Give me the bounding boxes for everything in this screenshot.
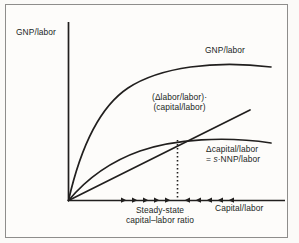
labor-growth-line-label-line1: (Δlabor/labor)· <box>152 92 207 102</box>
labor-growth-line-label: (Δlabor/labor)· (capital/labor) <box>152 92 207 113</box>
steady-state-annotation-line1: Steady-state <box>112 205 208 215</box>
labor-growth-line-label-line2: (capital/labor) <box>152 102 207 112</box>
saving-curve-label-line1: Δcapital/labor <box>206 144 260 154</box>
x-axis-label: Capital/labor <box>215 203 263 213</box>
growth-model-figure: GNP/labor GNP/labor (Δlabor/labor)· (cap… <box>0 0 299 243</box>
y-axis-label: GNP/labor <box>16 27 56 37</box>
saving-curve-label-line2: = s·NNP/labor <box>206 154 260 164</box>
gnp-per-labor-curve-label: GNP/labor <box>205 45 245 55</box>
steady-state-annotation-line2: capital–labor ratio <box>112 215 208 225</box>
saving-curve-label: Δcapital/labor = s·NNP/labor <box>206 144 260 165</box>
steady-state-annotation: Steady-state capital–labor ratio <box>112 205 208 226</box>
saving-curve-label-rest: ·NNP/labor <box>218 154 260 164</box>
gnp-per-labor-curve <box>69 64 272 200</box>
